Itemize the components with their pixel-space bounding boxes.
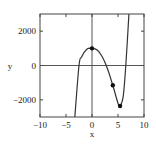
y-axis-label: y	[8, 61, 13, 71]
y-tick-label: 2000	[18, 26, 37, 36]
y-tick-label: −2000	[13, 95, 37, 105]
x-axis-label: x	[90, 129, 95, 139]
chart: −10−50510−200002000xy	[0, 0, 156, 147]
data-point	[90, 46, 94, 50]
x-tick-label: −10	[33, 120, 48, 130]
x-tick-label: −5	[61, 120, 71, 130]
data-point	[118, 104, 122, 108]
plot-area: −10−50510−200002000xy	[0, 0, 156, 147]
data-point	[111, 83, 115, 87]
y-tick-label: 0	[32, 61, 37, 71]
x-tick-label: 10	[140, 120, 150, 130]
x-tick-label: 5	[116, 120, 121, 130]
